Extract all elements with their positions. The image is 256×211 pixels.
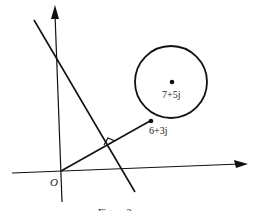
imaginary-axis	[51, 5, 62, 202]
center-point	[170, 80, 175, 85]
point-6-3j	[149, 119, 154, 124]
origin-label: O	[50, 176, 58, 188]
argand-diagram: 7+5j 6+3j O Figure 2	[0, 0, 256, 211]
real-axis	[12, 160, 248, 173]
perpendicular-bisector-line	[34, 20, 135, 192]
segment-origin-to-point	[61, 121, 150, 171]
imaginary-axis-arrow-icon	[51, 5, 59, 19]
center-label: 7+5j	[162, 89, 180, 100]
real-axis-arrow-icon	[234, 160, 248, 168]
point-label: 6+3j	[149, 125, 167, 136]
figure-caption: Figure 2	[98, 207, 132, 211]
